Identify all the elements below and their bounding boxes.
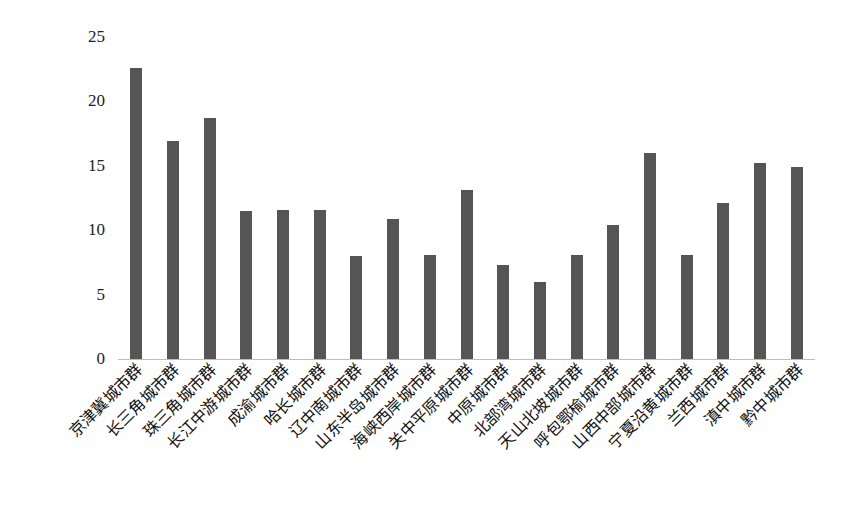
bar-chart: 0510152025 京津冀城市群长三角城市群珠三角城市群长江中游城市群成渝城市… bbox=[0, 0, 854, 522]
y-tick-label: 10 bbox=[65, 220, 105, 240]
bar bbox=[461, 190, 473, 359]
bar bbox=[681, 255, 693, 359]
bar bbox=[644, 153, 656, 359]
bar bbox=[314, 210, 326, 359]
x-axis-line bbox=[118, 359, 815, 360]
bar bbox=[534, 282, 546, 359]
bar bbox=[277, 210, 289, 359]
bar bbox=[497, 265, 509, 359]
bar bbox=[167, 141, 179, 359]
y-tick-label: 0 bbox=[65, 349, 105, 369]
bar bbox=[754, 163, 766, 359]
bar bbox=[350, 256, 362, 359]
bar bbox=[130, 68, 142, 359]
bar bbox=[387, 219, 399, 359]
bar bbox=[240, 211, 252, 359]
bar bbox=[717, 203, 729, 359]
bar bbox=[791, 167, 803, 359]
y-tick-label: 5 bbox=[65, 285, 105, 305]
y-tick-label: 25 bbox=[65, 27, 105, 47]
bar bbox=[424, 255, 436, 359]
y-tick-label: 20 bbox=[65, 91, 105, 111]
bar bbox=[571, 255, 583, 359]
bar bbox=[607, 225, 619, 359]
bar bbox=[204, 118, 216, 359]
y-tick-label: 15 bbox=[65, 156, 105, 176]
